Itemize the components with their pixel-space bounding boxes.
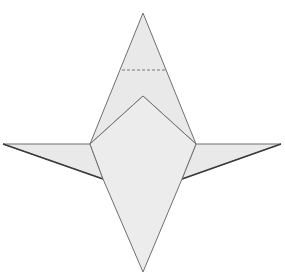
origami-diagram	[0, 0, 285, 280]
